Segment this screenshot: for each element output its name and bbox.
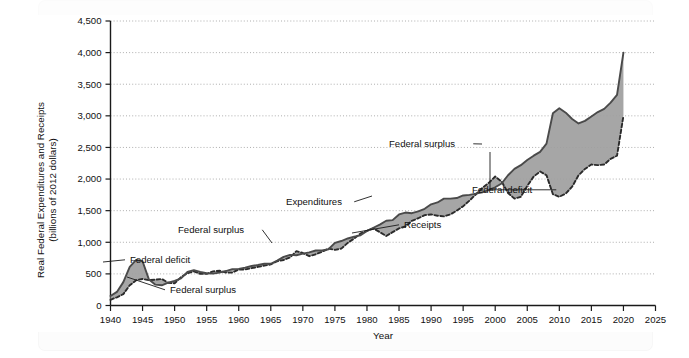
- annotation-layer: Federal deficitFederal surplusFederal su…: [103, 138, 556, 295]
- annotation-leader-federal-surplus-1970: [262, 230, 272, 243]
- x-tick-label: 1940: [100, 314, 121, 325]
- x-tick-label: 1970: [292, 314, 313, 325]
- x-tick-label: 2005: [517, 314, 538, 325]
- x-tick-label: 2000: [485, 314, 506, 325]
- annotation-label-federal-deficit-ww2: Federal deficit: [130, 254, 191, 265]
- annotation-leader-federal-deficit-ww2: [103, 260, 125, 262]
- x-tick-label: 2025: [645, 314, 666, 325]
- x-tick-label: 1990: [420, 314, 441, 325]
- x-tick-label: 1955: [196, 314, 217, 325]
- y-tick-label: 2,500: [77, 142, 101, 153]
- x-tick-label: 1975: [324, 314, 345, 325]
- annotation-label-federal-surplus-2000: Federal surplus: [389, 138, 455, 149]
- y-tick-label: 0: [96, 300, 101, 311]
- y-tick-label: 3,000: [77, 110, 101, 121]
- annotation-label-receipts: Receipts: [404, 219, 442, 230]
- x-axis-title: Year: [373, 330, 394, 341]
- x-tick-label: 1945: [132, 314, 153, 325]
- y-tick-label: 1,000: [77, 237, 101, 248]
- y-tick-label: 4,000: [77, 47, 101, 58]
- x-tick-label: 2010: [549, 314, 570, 325]
- y-axis-title-line2: (billions of 2012 dollars): [47, 138, 58, 241]
- y-tick-label: 500: [85, 268, 101, 279]
- x-tick-label: 2020: [613, 314, 634, 325]
- x-tick-label: 1960: [228, 314, 249, 325]
- y-tick-label: 4,500: [77, 15, 101, 26]
- chart-figure: Real Federal Expenditures and Receipts (…: [0, 0, 689, 358]
- x-tick-label: 1965: [260, 314, 281, 325]
- annotation-label-federal-surplus-1950s: Federal surplus: [170, 284, 236, 295]
- x-axis: 1940194519501955196019651970197519801985…: [100, 306, 666, 325]
- y-tick-label: 1,500: [77, 205, 101, 216]
- y-axis-title-line1: Real Federal Expenditures and Receipts: [35, 102, 46, 278]
- annotation-leader-expenditures: [354, 196, 372, 202]
- x-tick-label: 1980: [356, 314, 377, 325]
- chart-svg: Real Federal Expenditures and Receipts (…: [0, 0, 689, 358]
- x-tick-label: 2015: [581, 314, 602, 325]
- x-tick-label: 1995: [452, 314, 473, 325]
- figure-stage: Real Federal Expenditures and Receipts (…: [0, 0, 689, 358]
- y-axis-title: Real Federal Expenditures and Receipts (…: [35, 102, 58, 278]
- x-tick-label: 1985: [388, 314, 409, 325]
- y-tick-label: 2,000: [77, 173, 101, 184]
- annotation-label-expenditures: Expenditures: [286, 196, 342, 207]
- x-tick-label: 1950: [164, 314, 185, 325]
- annotation-label-federal-surplus-1970: Federal surplus: [178, 224, 244, 235]
- y-tick-label: 3,500: [77, 79, 101, 90]
